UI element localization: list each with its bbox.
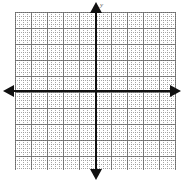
x-axis-left-arrow-icon [3,85,14,97]
y-axis-down-arrow-icon [90,169,102,180]
y-axis-label: y [100,2,103,9]
coordinate-grid-figure: y [0,0,184,183]
x-axis-right-arrow-icon [170,85,181,97]
y-axis-line [95,5,97,177]
x-axis-line [6,90,178,92]
